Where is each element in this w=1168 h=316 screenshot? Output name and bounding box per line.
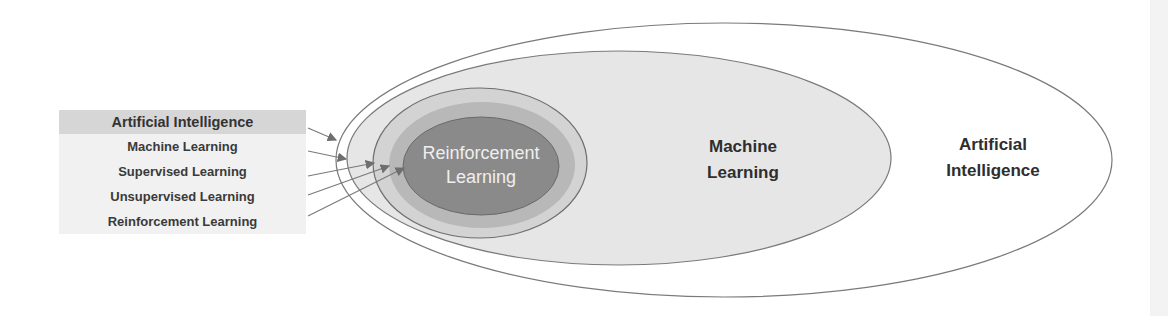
legend: Artificial Intelligence Machine Learning… (59, 110, 306, 234)
ai-label-line1: Artificial (923, 132, 1063, 158)
legend-item-unsupervised: Unsupervised Learning (59, 184, 306, 209)
legend-item-supervised: Supervised Learning (59, 159, 306, 184)
reinforcement-label: Reinforcement Learning (401, 141, 561, 189)
reinforcement-label-line1: Reinforcement (401, 141, 561, 165)
reinforcement-label-line2: Learning (401, 165, 561, 189)
legend-item-ai: Artificial Intelligence (59, 110, 306, 134)
ml-label-line2: Learning (683, 160, 803, 186)
diagram-canvas: Artificial Intelligence Machine Learning… (0, 0, 1168, 316)
ml-label-line1: Machine (683, 134, 803, 160)
legend-item-reinforcement: Reinforcement Learning (59, 209, 306, 234)
ai-label: Artificial Intelligence (923, 132, 1063, 184)
ai-label-line2: Intelligence (923, 158, 1063, 184)
ml-label: Machine Learning (683, 134, 803, 186)
legend-item-ml: Machine Learning (59, 134, 306, 159)
arrow-ai (308, 128, 336, 140)
